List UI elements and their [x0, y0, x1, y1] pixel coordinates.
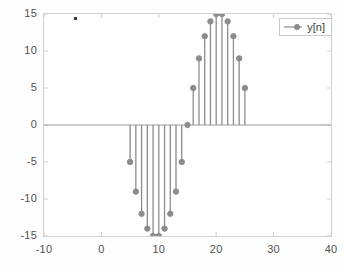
x-tick-label: -10	[36, 243, 53, 255]
y-tick-label: 0	[0, 118, 37, 130]
figure-canvas: 151050-5-10-15 -10010203040 y[n]	[0, 0, 345, 274]
y-tick-label: 10	[0, 44, 37, 56]
legend-marker-icon	[284, 22, 304, 32]
x-tick-label: 40	[325, 243, 338, 255]
x-tick-label: 0	[98, 243, 104, 255]
y-tick-label: 5	[0, 81, 37, 93]
legend-box[interactable]: y[n]	[279, 18, 332, 36]
plot-area	[43, 13, 332, 237]
y-tick-label: 15	[0, 7, 37, 19]
x-tick-label: 30	[267, 243, 280, 255]
x-tick-label: 20	[210, 243, 223, 255]
y-tick-label: -15	[0, 229, 37, 241]
y-tick-label: -10	[0, 192, 37, 204]
legend-label-y-n: y[n]	[307, 21, 325, 33]
stem-plot-svg	[44, 14, 331, 236]
speck-artifact	[74, 17, 77, 20]
y-tick-label: -5	[0, 155, 37, 167]
x-tick-label: 10	[152, 243, 165, 255]
